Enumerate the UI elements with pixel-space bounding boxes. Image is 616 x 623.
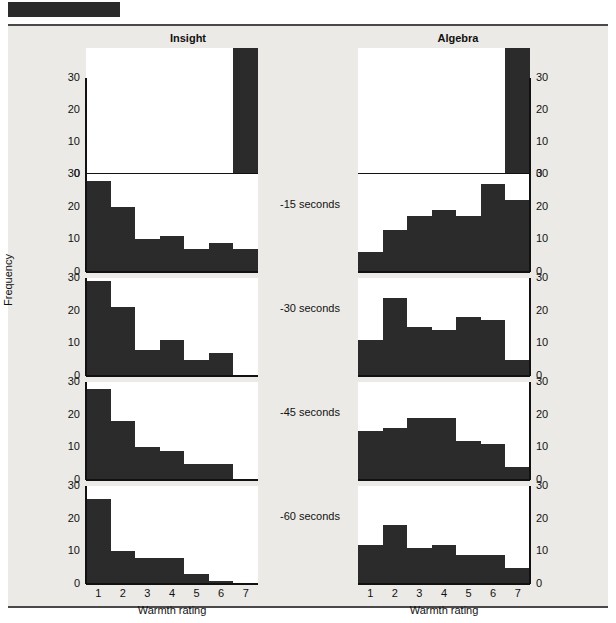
bar-series bbox=[358, 278, 530, 376]
bar-rating-2 bbox=[111, 207, 136, 272]
bar-rating-2 bbox=[383, 428, 408, 480]
histogram-panel-insight-minus30-seconds bbox=[86, 278, 258, 376]
bar-rating-2 bbox=[383, 298, 408, 376]
bar-rating-2 bbox=[111, 551, 136, 584]
bar-rating-3 bbox=[135, 558, 160, 584]
histogram-panel-insight-minus15-seconds bbox=[86, 174, 258, 272]
bar-rating-4 bbox=[432, 418, 457, 480]
bar-rating-3 bbox=[407, 418, 432, 480]
bar-rating-4 bbox=[432, 545, 457, 584]
bar-rating-5 bbox=[184, 249, 209, 272]
histogram-panel-insight-minus60-seconds bbox=[86, 486, 258, 584]
bar-rating-1 bbox=[86, 499, 111, 584]
bar-rating-3 bbox=[135, 350, 160, 376]
y-tick-label: 10 bbox=[58, 135, 80, 147]
x-tick-label: 4 bbox=[162, 587, 182, 599]
x-axis-line bbox=[86, 375, 258, 377]
bar-rating-4 bbox=[432, 330, 457, 376]
y-tick-label: 30 bbox=[58, 71, 80, 83]
x-tick-label: 3 bbox=[409, 587, 429, 599]
bar-series bbox=[358, 486, 530, 584]
bar-rating-2 bbox=[111, 421, 136, 480]
y-axis-line bbox=[85, 486, 87, 584]
histogram-panel-algebra-minus60-seconds bbox=[358, 486, 530, 584]
y-tick-label: 30 bbox=[58, 479, 80, 491]
x-tick-label: 1 bbox=[88, 587, 108, 599]
y-tick-label: 20 bbox=[58, 103, 80, 115]
bar-rating-7 bbox=[505, 568, 530, 584]
bar-rating-3 bbox=[135, 239, 160, 272]
x-axis-line bbox=[358, 479, 530, 481]
y-tick-label: 30 bbox=[536, 271, 558, 283]
x-tick-label: 7 bbox=[236, 587, 256, 599]
bar-series bbox=[86, 382, 258, 480]
y-tick-label: 30 bbox=[536, 479, 558, 491]
bar-rating-4 bbox=[160, 340, 185, 376]
y-axis-line bbox=[85, 382, 87, 480]
histogram-panel-algebra-minus15-seconds bbox=[358, 174, 530, 272]
bar-rating-6 bbox=[481, 320, 506, 376]
y-tick-label: 10 bbox=[536, 544, 558, 556]
bar-rating-4 bbox=[160, 236, 185, 272]
x-tick-label: 1 bbox=[360, 587, 380, 599]
bar-rating-5 bbox=[456, 441, 481, 480]
y-tick-label: 20 bbox=[58, 408, 80, 420]
y-tick-label: 0 bbox=[536, 577, 558, 589]
x-axis-label-insight: Warmth rating bbox=[92, 604, 252, 616]
bar-rating-7 bbox=[233, 48, 258, 174]
y-tick-label: 20 bbox=[58, 200, 80, 212]
bar-series bbox=[86, 48, 258, 174]
row-label: -45 seconds bbox=[250, 406, 370, 418]
bar-series bbox=[86, 278, 258, 376]
panel-row: 01020300102030-45 seconds bbox=[8, 382, 608, 480]
bar-rating-6 bbox=[209, 353, 234, 376]
row-label: -30 seconds bbox=[250, 302, 370, 314]
bar-rating-1 bbox=[358, 545, 383, 584]
y-tick-label: 30 bbox=[536, 71, 558, 83]
bar-rating-1 bbox=[358, 340, 383, 376]
y-tick-label: 10 bbox=[58, 544, 80, 556]
y-tick-label: 20 bbox=[536, 103, 558, 115]
histogram-panel-algebra-minus45-seconds bbox=[358, 382, 530, 480]
row-label: -60 seconds bbox=[250, 510, 370, 522]
bar-rating-2 bbox=[111, 307, 136, 376]
y-tick-label: 20 bbox=[536, 200, 558, 212]
bar-rating-1 bbox=[358, 431, 383, 480]
y-axis-line bbox=[85, 278, 87, 376]
bar-rating-3 bbox=[407, 327, 432, 376]
x-axis-line bbox=[86, 479, 258, 481]
y-tick-label: 10 bbox=[536, 135, 558, 147]
y-tick-label: 10 bbox=[58, 336, 80, 348]
x-axis-line bbox=[358, 583, 530, 585]
y-axis-line bbox=[529, 174, 531, 272]
bar-rating-2 bbox=[383, 230, 408, 272]
bar-rating-2 bbox=[383, 525, 408, 584]
y-tick-label: 0 bbox=[58, 577, 80, 589]
y-tick-label: 30 bbox=[536, 167, 558, 179]
x-tick-label: 6 bbox=[211, 587, 231, 599]
y-tick-label: 20 bbox=[536, 512, 558, 524]
redacted-header-bar bbox=[8, 2, 120, 17]
bar-rating-5 bbox=[456, 555, 481, 584]
bar-rating-6 bbox=[481, 555, 506, 584]
y-tick-label: 20 bbox=[58, 304, 80, 316]
bar-series bbox=[86, 486, 258, 584]
bar-rating-1 bbox=[86, 281, 111, 376]
y-tick-label: 10 bbox=[58, 232, 80, 244]
histogram-panel-algebra-solution bbox=[358, 48, 530, 174]
y-tick-label: 30 bbox=[536, 375, 558, 387]
panel-row: 01020300102030-60 seconds bbox=[8, 486, 608, 584]
x-axis-line bbox=[358, 271, 530, 273]
x-tick-label: 3 bbox=[137, 587, 157, 599]
bar-rating-6 bbox=[481, 444, 506, 480]
bar-rating-5 bbox=[456, 216, 481, 272]
y-tick-label: 10 bbox=[58, 440, 80, 452]
y-tick-label: 20 bbox=[58, 512, 80, 524]
histogram-panel-insight-solution bbox=[86, 48, 258, 174]
figure-plate: Insight Algebra Frequency 01020300102030… bbox=[8, 24, 608, 608]
bar-rating-4 bbox=[160, 558, 185, 584]
bar-rating-7 bbox=[505, 360, 530, 376]
bar-rating-4 bbox=[432, 210, 457, 272]
y-axis-line bbox=[529, 382, 531, 480]
y-axis-line bbox=[529, 486, 531, 584]
